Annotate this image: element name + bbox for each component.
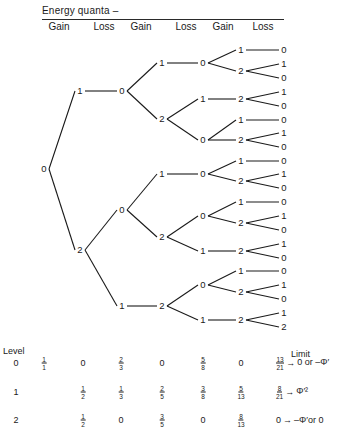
tree-edge (167, 306, 198, 320)
tree-node: 0 (119, 85, 124, 96)
tree-node: 2 (159, 231, 164, 242)
tree-node: 0 (200, 134, 205, 145)
arrow-right-icon: → (283, 415, 292, 425)
tree-node: 0 (281, 72, 286, 83)
tree-edge (49, 169, 75, 250)
tree-edge (246, 292, 279, 299)
tree-node: 1 (238, 44, 243, 55)
tree-node: 1 (281, 210, 286, 221)
tree-node: 1 (238, 196, 243, 207)
tree-edge (167, 285, 198, 306)
tree-edge (208, 216, 236, 223)
tree-edge (246, 140, 279, 147)
tree-node: 1 (238, 155, 243, 166)
tree-node: 1 (281, 58, 286, 69)
tree-edge (208, 174, 236, 181)
table-cell: 58 (201, 356, 206, 371)
tree-node: 1 (77, 85, 82, 96)
table-cell: 0 (238, 358, 243, 368)
table-cell: 12 (81, 413, 86, 428)
limit-value: 1321→0 or –Φ′ (276, 356, 329, 371)
table-cell: 513 (237, 385, 244, 400)
tree-edge (246, 181, 279, 188)
arrow-right-icon: → (285, 386, 294, 396)
tree-node: 0 (200, 279, 205, 290)
tree-node: 1 (281, 168, 286, 179)
tree-edge (85, 250, 117, 306)
table-cell: 11 (42, 356, 47, 371)
tree-edge (246, 99, 279, 106)
table-cell: 813 (237, 413, 244, 428)
table-cell: 0 (118, 415, 123, 425)
table-cell: 12 (81, 385, 86, 400)
table-cell: 0 (200, 415, 205, 425)
tree-edge (127, 174, 157, 210)
limit-value: 0→–Φ′or 0 (276, 415, 323, 425)
tree-edge (246, 133, 279, 140)
table-cell: 13 (119, 385, 124, 400)
table-cell: 23 (119, 356, 124, 371)
tree-edge (127, 210, 157, 237)
tree-edge (208, 161, 236, 174)
tree-node: 2 (238, 175, 243, 186)
tree-edge (167, 237, 198, 251)
tree-node: 1 (119, 300, 124, 311)
tree-edge (246, 320, 279, 327)
level-label: 1 (13, 387, 18, 397)
tree-edge (246, 244, 279, 251)
tree-edge (246, 285, 279, 292)
tree-node: 2 (159, 300, 164, 311)
tree-edge (246, 64, 279, 71)
tree-node: 1 (281, 279, 286, 290)
tree-edge (208, 63, 236, 71)
tree-edge (208, 202, 236, 216)
tree-edge (246, 223, 279, 230)
tree-node: 2 (238, 245, 243, 256)
tree-node: 1 (281, 238, 286, 249)
table-cell: 38 (201, 385, 206, 400)
tree-node: 0 (281, 224, 286, 235)
tree-edge (208, 271, 236, 285)
energy-tree-diagram: 0120011212201000101122121212212201010010… (0, 0, 339, 340)
tree-node: 0 (281, 155, 286, 166)
tree-node: 1 (281, 127, 286, 138)
tree-node: 0 (200, 57, 205, 68)
level-title: Level (3, 346, 25, 356)
tree-node: 0 (119, 204, 124, 215)
tree-node: 2 (238, 134, 243, 145)
tree-edge (85, 210, 117, 250)
table-cell: 0 (80, 358, 85, 368)
tree-edge (167, 99, 198, 119)
tree-node: 1 (200, 93, 205, 104)
tree-node: 0 (41, 163, 46, 174)
tree-edge (49, 91, 75, 169)
tree-node: 2 (238, 65, 243, 76)
tree-node: 1 (159, 57, 164, 68)
tree-node: 2 (238, 314, 243, 325)
arrow-right-icon: → (286, 357, 295, 367)
table-cell: 35 (160, 413, 165, 428)
tree-edge (127, 91, 157, 119)
tree-edge (208, 285, 236, 292)
tree-node: 1 (238, 114, 243, 125)
tree-edge (246, 216, 279, 223)
tree-edge (167, 119, 198, 140)
tree-node: 0 (200, 168, 205, 179)
tree-node: 2 (238, 286, 243, 297)
tree-node: 1 (281, 307, 286, 318)
tree-node: 2 (159, 113, 164, 124)
tree-edge (246, 174, 279, 181)
tree-edge (167, 216, 198, 237)
tree-node: 0 (281, 141, 286, 152)
tree-node: 0 (281, 252, 286, 263)
table-cell: 0 (159, 358, 164, 368)
tree-node: 1 (238, 265, 243, 276)
tree-node: 0 (281, 100, 286, 111)
limit-value: 821→Φ′² (276, 385, 308, 400)
tree-edge (246, 92, 279, 99)
tree-node: 0 (281, 265, 286, 276)
tree-node: 2 (77, 244, 82, 255)
tree-node: 1 (200, 245, 205, 256)
level-label: 2 (13, 415, 18, 425)
tree-edge (127, 63, 157, 91)
